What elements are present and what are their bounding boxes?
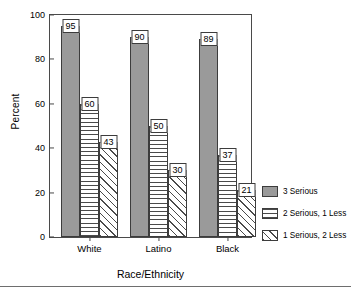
plot-area: 100 80 60 40 20 0 95 60 43 xyxy=(49,14,252,238)
value-label-black-2-serious-1-less: 37 xyxy=(219,148,236,162)
legend-label-3-serious: 3 Serious xyxy=(283,187,318,196)
horizontal-lines-swatch-icon xyxy=(262,208,278,219)
bar-white-3-serious[interactable] xyxy=(61,26,80,237)
x-tick-mark-white xyxy=(89,237,90,241)
bar-black-3-serious[interactable] xyxy=(199,39,218,237)
x-tick-mark-latino xyxy=(158,237,159,241)
x-axis-title: Race/Ethnicity xyxy=(49,268,252,280)
value-label-white-2-serious-1-less: 60 xyxy=(81,97,98,111)
y-tick-label-20: 20 xyxy=(35,188,50,198)
bar-white-1-serious-2-less[interactable] xyxy=(99,142,118,238)
bar-latino-2-serious-1-less[interactable] xyxy=(149,126,168,237)
y-tick-label-60: 60 xyxy=(35,99,50,109)
value-label-black-3-serious: 89 xyxy=(200,32,217,46)
diagonal-hatch-swatch-icon xyxy=(262,230,278,241)
legend-item-2-serious-1-less[interactable]: 2 Serious, 1 Less xyxy=(262,202,350,224)
legend-label-2-serious-1-less: 2 Serious, 1 Less xyxy=(283,209,346,218)
bar-latino-3-serious[interactable] xyxy=(130,37,149,237)
bar-white-2-serious-1-less[interactable] xyxy=(80,104,99,237)
bar-latino-1-serious-2-less[interactable] xyxy=(168,170,187,237)
y-tick-label-100: 100 xyxy=(30,10,50,20)
x-tick-label-latino: Latino xyxy=(146,243,172,254)
value-label-latino-3-serious: 90 xyxy=(131,30,148,44)
value-label-latino-1-serious-2-less: 30 xyxy=(169,163,186,177)
bar-black-1-serious-2-less[interactable] xyxy=(237,190,256,237)
value-label-latino-2-serious-1-less: 50 xyxy=(150,119,167,133)
legend-item-1-serious-2-less[interactable]: 1 Serious, 2 Less xyxy=(262,224,350,246)
x-tick-label-black: Black xyxy=(216,243,239,254)
y-tick-label-80: 80 xyxy=(35,54,50,64)
bar-black-2-serious-1-less[interactable] xyxy=(218,155,237,237)
solid-gray-swatch-icon xyxy=(262,186,278,197)
value-label-white-3-serious: 95 xyxy=(62,19,79,33)
bars-layer: 95 60 43 90 50 30 89 37 21 xyxy=(50,15,251,237)
legend-label-1-serious-2-less: 1 Serious, 2 Less xyxy=(283,231,346,240)
y-tick-label-40: 40 xyxy=(35,143,50,153)
legend-item-3-serious[interactable]: 3 Serious xyxy=(262,180,350,202)
bar-chart-figure: Percent 100 80 60 40 20 0 xyxy=(0,0,351,296)
footer-divider xyxy=(0,286,351,287)
y-axis-title: Percent xyxy=(10,72,21,152)
x-tick-mark-black xyxy=(227,237,228,241)
y-tick-label-0: 0 xyxy=(40,232,50,242)
value-label-black-1-serious-2-less: 21 xyxy=(238,183,255,197)
value-label-white-1-serious-2-less: 43 xyxy=(100,135,117,149)
x-tick-label-white: White xyxy=(77,243,101,254)
chart-legend: 3 Serious 2 Serious, 1 Less 1 Serious, 2… xyxy=(262,180,350,246)
